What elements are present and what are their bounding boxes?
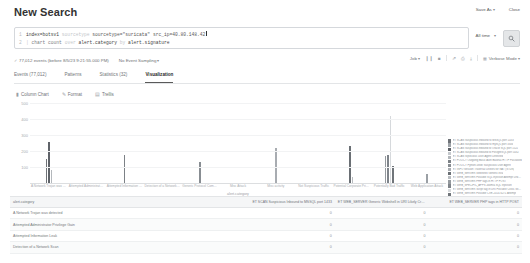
- export-icon[interactable]: ⤓: [470, 56, 472, 61]
- table-cell-category: Attempted Information Leak: [10, 230, 241, 241]
- x-axis-label: Web Application Attack: [408, 184, 446, 188]
- query-token-chart: chart count: [32, 39, 62, 47]
- y-axis-tick: 400: [21, 117, 28, 122]
- bar[interactable]: [392, 166, 394, 183]
- tab-events[interactable]: Events (77,012): [14, 72, 46, 83]
- bar-group: [370, 103, 408, 183]
- bar[interactable]: [387, 155, 389, 183]
- table-column-header[interactable]: ET WEB_SERVER Generic Webshell in URI Li…: [335, 197, 429, 208]
- column-chart: 500400300200100 A Network Trojan was det…: [10, 103, 522, 201]
- query-token-over: over: [65, 39, 76, 47]
- bar[interactable]: [51, 170, 53, 183]
- search-query-input[interactable]: 1 index=botsv1 sourcetype sourcetype="su…: [14, 27, 469, 49]
- share-icon[interactable]: ⇗: [452, 56, 456, 61]
- bar[interactable]: [199, 162, 201, 183]
- bar-group: [30, 103, 68, 183]
- x-axis-label: Detection of a Network Scan: [143, 184, 181, 188]
- table-row: Attempted Administrator Privilege Gain00…: [10, 219, 522, 230]
- legend-swatch: [448, 164, 451, 167]
- page-header: New Search Save As▾ Close: [0, 0, 530, 22]
- table-cell-value: 0: [335, 208, 429, 219]
- grid-icon: ▤: [95, 92, 100, 97]
- legend-swatch: [448, 148, 451, 151]
- chevron-down-icon: ▾: [518, 56, 520, 61]
- page-title: New Search: [14, 6, 520, 18]
- bar[interactable]: [352, 177, 354, 183]
- legend-swatch: [448, 152, 451, 155]
- bar[interactable]: [46, 159, 48, 183]
- query-token-field1: alert.category: [78, 39, 117, 47]
- header-actions: Save As▾ Close: [476, 7, 520, 12]
- x-axis-label: A Network Trojan was detected: [30, 184, 68, 188]
- x-axis-label: Misc Attack: [219, 184, 257, 188]
- visualization-toolbar: ▮Column Chart ✎Format ▤Trellis: [16, 90, 520, 99]
- chart-legend: ET SCAN Suspicious Inbound to MSSQL port…: [448, 139, 522, 200]
- legend-swatch: [448, 172, 451, 175]
- x-axis: A Network Trojan was detectedAttempted A…: [30, 184, 446, 188]
- table-column-header[interactable]: ET WEB_SERVER PHP tags in HTTP POST: [428, 197, 522, 208]
- legend-swatch: [448, 160, 451, 163]
- table-cell-value: 0: [241, 242, 335, 253]
- job-menu-button[interactable]: Job▾: [410, 56, 420, 61]
- y-axis: 500400300200100: [10, 103, 30, 183]
- x-axis-label: Misc activity: [257, 184, 295, 188]
- x-axis-label: Generic Protocol Command Decode: [181, 184, 219, 188]
- bar-group: [68, 103, 106, 183]
- trellis-button[interactable]: ▤Trellis: [95, 92, 114, 97]
- results-meta-row: ✓77,012 events (before 8/5/23 9:21:55.00…: [14, 55, 520, 65]
- bar-group: [181, 103, 219, 183]
- table-cell-value: 0: [428, 242, 522, 253]
- event-sampling-button[interactable]: No Event Sampling▾: [119, 58, 160, 63]
- chart-type-button[interactable]: ▮Column Chart: [16, 92, 49, 97]
- query-line-2: 2 | chart count over alert.category by a…: [19, 39, 464, 47]
- table-cell-value: 0: [428, 230, 522, 241]
- gridline: [30, 119, 446, 120]
- bar[interactable]: [385, 156, 387, 183]
- bar[interactable]: [390, 116, 392, 183]
- tab-statistics[interactable]: Statistics (32): [100, 72, 128, 83]
- legend-swatch: [448, 176, 451, 179]
- table-cell-value: 0: [335, 230, 429, 241]
- table-cell-value: 0: [428, 208, 522, 219]
- search-submit-button[interactable]: [503, 30, 520, 47]
- bar-group: [219, 103, 257, 183]
- divider: [446, 55, 447, 61]
- bar[interactable]: [48, 142, 50, 183]
- bar[interactable]: [426, 174, 428, 183]
- query-line-1: 1 index=botsv1 sourcetype sourcetype="su…: [19, 31, 464, 39]
- table-cell-category: Attempted Administrator Privilege Gain: [10, 219, 241, 230]
- search-icon: [508, 35, 515, 42]
- table-column-header[interactable]: ET SCAN Suspicious Inbound to MSSQL port…: [241, 197, 335, 208]
- pause-icon[interactable]: ❙❙: [425, 56, 433, 61]
- x-axis-label: Attempted Administrator Privilege Gain: [68, 184, 106, 188]
- x-axis-label: Attempted Information Leak: [106, 184, 144, 188]
- save-as-button[interactable]: Save As▾: [476, 7, 495, 12]
- gridline: [30, 135, 446, 136]
- table-cell-value: 0: [241, 219, 335, 230]
- y-axis-tick: 200: [21, 149, 28, 154]
- tab-patterns[interactable]: Patterns: [64, 72, 81, 83]
- legend-swatch: [448, 184, 451, 187]
- table-row: A Network Trojan was detected000: [10, 208, 522, 219]
- table-header-row: alert.categoryET SCAN Suspicious Inbound…: [10, 197, 522, 208]
- close-button[interactable]: Close: [509, 7, 520, 12]
- table-column-header[interactable]: alert.category: [10, 197, 241, 208]
- tab-visualization[interactable]: Visualization: [145, 72, 173, 83]
- x-axis-label: Potential Corporate Privacy Violation: [333, 184, 371, 188]
- table-body: A Network Trojan was detected000Attempte…: [10, 208, 522, 254]
- result-tabs: Events (77,012) Patterns Statistics (32)…: [14, 72, 520, 84]
- y-axis-tick: 500: [21, 101, 28, 106]
- format-button[interactable]: ✎Format: [62, 92, 82, 97]
- gridline: [30, 151, 446, 152]
- bar[interactable]: [275, 148, 277, 183]
- legend-swatch: [448, 180, 451, 183]
- x-axis-label: Not Suspicious Traffic: [295, 184, 333, 188]
- bar[interactable]: [124, 155, 126, 183]
- stop-icon[interactable]: ■: [438, 56, 441, 61]
- event-count-label: ✓77,012 events (before 8/5/23 9:21:55.00…: [14, 58, 109, 63]
- check-icon: ✓: [14, 58, 17, 63]
- job-controls: Job▾ ❙❙ ■ ⇗ ⎙ ⤓ ▦Verbose Mode▾: [410, 55, 520, 61]
- time-range-picker[interactable]: All time▾: [469, 27, 500, 38]
- print-icon[interactable]: ⎙: [461, 56, 465, 61]
- search-mode-button[interactable]: ▦Verbose Mode▾: [483, 56, 520, 61]
